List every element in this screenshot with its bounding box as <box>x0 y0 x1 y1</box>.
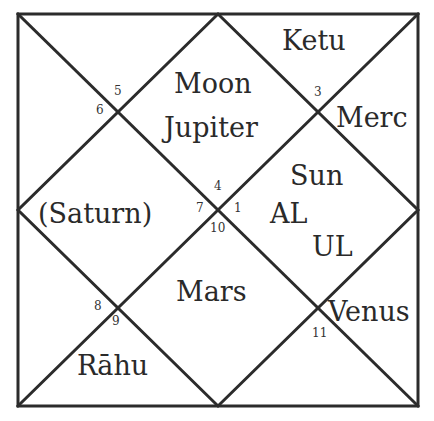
planet-merc: Merc <box>336 104 408 131</box>
sign-number-8: 8 <box>94 300 102 312</box>
planet-saturn: (Saturn) <box>38 200 152 227</box>
planet-venus: Venus <box>328 298 410 325</box>
sign-number-5: 5 <box>114 85 122 97</box>
planet-jupiter: Jupiter <box>164 114 258 141</box>
sign-number-7: 7 <box>196 202 204 214</box>
sign-number-6: 6 <box>96 104 104 116</box>
ascendant-al: AL <box>270 200 307 227</box>
planet-ketu: Ketu <box>282 27 346 54</box>
sign-number-1: 1 <box>234 202 242 214</box>
planet-mars: Mars <box>176 278 247 305</box>
sign-number-4: 4 <box>214 180 222 192</box>
planet-moon: Moon <box>174 70 252 97</box>
sign-number-3: 3 <box>314 86 322 98</box>
sign-number-10: 10 <box>210 222 225 234</box>
sign-number-11: 11 <box>312 327 327 339</box>
planet-rahu: Rāhu <box>77 352 148 379</box>
planet-sun: Sun <box>290 162 343 189</box>
upapada-ul: UL <box>312 233 353 260</box>
sign-number-9: 9 <box>112 315 120 327</box>
